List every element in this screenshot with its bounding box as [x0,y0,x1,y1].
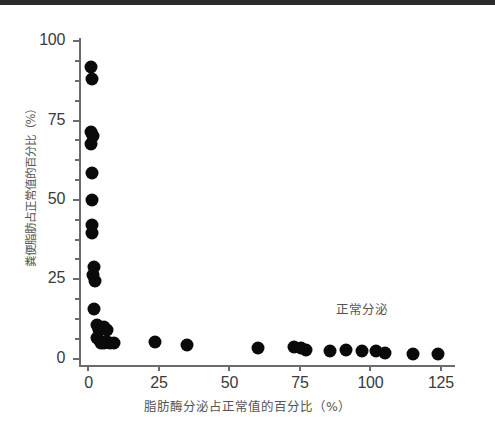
data-point [88,274,101,287]
chart-page: 0255075100125 0255075100 正常分泌 粪便脂肪占正常值的百… [0,0,495,424]
x-tick-label: 25 [129,374,189,392]
data-point [85,138,98,151]
y-tick [73,40,80,42]
data-point [323,345,336,358]
annotation-normal-secretion: 正常分泌 [336,298,388,317]
x-tick-label: 125 [411,374,471,392]
x-tick [299,365,301,371]
data-point [88,303,101,316]
x-tick [369,365,371,371]
data-point [432,347,445,360]
data-point [85,60,98,73]
data-point [406,347,419,360]
y-axis-label: 粪便脂肪占正常值的百分比（%） [22,103,38,268]
data-point [181,339,194,352]
y-tick [73,120,80,122]
data-point [85,193,98,206]
x-tick [228,365,230,371]
y-tick [73,358,80,360]
x-tick [87,365,89,371]
x-axis-label: 脂肪酶分泌占正常值的百分比（%） [0,396,495,415]
data-point [355,345,368,358]
data-point [340,344,353,357]
data-point [148,336,161,349]
data-point [108,337,121,350]
data-point [299,343,312,356]
y-tick [73,199,80,201]
scatter-figure: 0255075100125 0255075100 正常分泌 粪便脂肪占正常值的百… [0,5,495,424]
x-axis-line [80,365,455,367]
plot-area [80,38,455,365]
x-tick-label: 50 [199,374,259,392]
y-tick [73,278,80,280]
data-point [85,73,98,86]
x-tick [158,365,160,371]
x-tick-label: 100 [340,374,400,392]
data-point [378,346,391,359]
x-tick [440,365,442,371]
y-axis-label-container: 粪便脂肪占正常值的百分比（%） [18,5,42,365]
x-tick-label: 75 [270,374,330,392]
data-point [85,227,98,240]
x-tick-label: 0 [58,374,118,392]
data-point [86,166,99,179]
data-point [251,342,264,355]
